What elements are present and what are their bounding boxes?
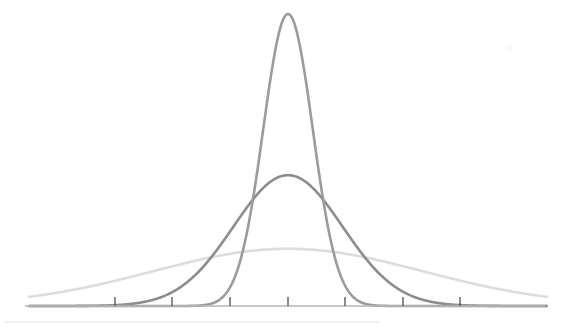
normal-distribution-chart	[0, 0, 570, 329]
curve-sigma-large	[29, 249, 547, 297]
faint-artifact-mark	[507, 45, 513, 51]
x-axis-ticks	[115, 297, 460, 306]
curve-sigma-medium	[29, 175, 547, 306]
curve-sigma-small	[29, 14, 547, 306]
curve-group-medium	[29, 175, 547, 306]
plot-area	[0, 0, 570, 329]
curve-group-small	[29, 14, 547, 306]
curve-group-large	[29, 249, 547, 297]
